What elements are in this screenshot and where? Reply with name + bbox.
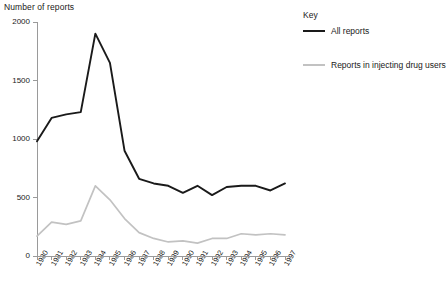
legend: Key All reports Reports in injecting dru… — [303, 10, 427, 94]
legend-item-all-reports: All reports — [303, 26, 427, 36]
axes — [33, 22, 289, 260]
legend-label-all-reports: All reports — [331, 26, 369, 36]
legend-label-injecting-drug-users: Reports in injecting drug users — [331, 60, 446, 70]
legend-swatch-injecting-drug-users — [303, 64, 325, 66]
series-line-all-reports — [37, 34, 285, 195]
legend-item-injecting-drug-users: Reports in injecting drug users — [303, 60, 427, 70]
series-line-injecting-drug-users — [37, 186, 285, 243]
legend-swatch-all-reports — [303, 30, 325, 32]
legend-title: Key — [303, 10, 427, 20]
data-series-group — [37, 34, 285, 243]
